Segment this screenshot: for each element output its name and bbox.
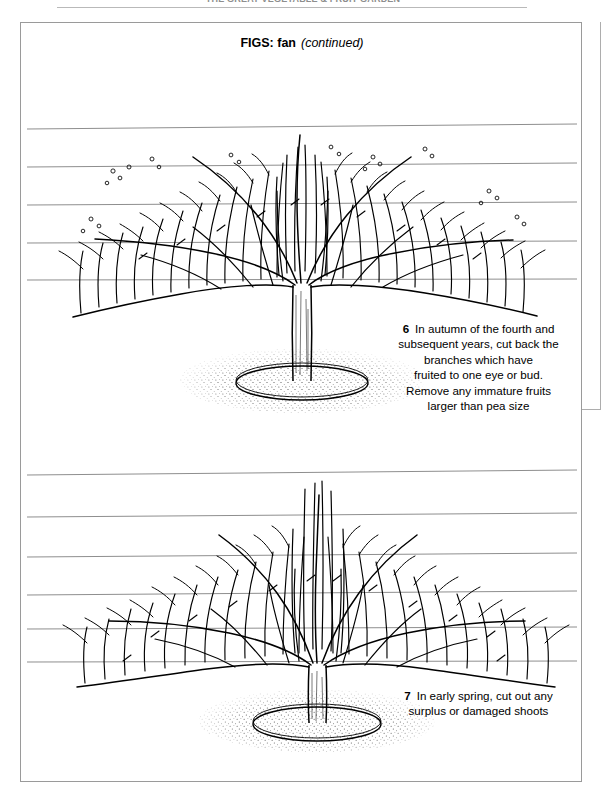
scaffold-branches [77,495,555,687]
outer-trim-line-right [600,22,601,410]
outer-trim-line-foot [582,409,601,410]
caption-6-line-4: Remove any immature fruits [376,383,581,398]
cut-marks [123,575,505,661]
figure-6: 6In autumn of the fourth and subsequent … [21,59,583,429]
caption-6-line-5: larger than pea size [376,398,581,413]
caption-6-text-0: In autumn of the fourth and [415,322,554,335]
caption-6-line-2: branches which have [376,352,581,367]
caption-6-number: 6 [403,322,415,335]
caption-6: 6In autumn of the fourth and subsequent … [376,321,581,413]
running-head-text: THE GREAT VEGETABLE & FRUIT GARDEN [0,0,606,4]
running-head: THE GREAT VEGETABLE & FRUIT GARDEN [0,0,606,9]
page-title-main: FIGS: fan [240,36,296,50]
caption-6-line-1: subsequent years, cut back the [376,336,581,351]
page-title-sub: (continued) [296,36,364,50]
caption-7-line-1: surplus or damaged shoots [376,703,581,718]
page-title: FIGS: fan(continued) [21,36,583,50]
caption-7-line-0: 7In early spring, cut out any [376,688,581,703]
figure-panel: FIGS: fan(continued) [20,22,582,782]
bud-marks [81,145,526,233]
running-head-rule [57,7,527,8]
caption-7-number: 7 [404,689,416,702]
figure-7: 7In early spring, cut out any surplus or… [21,433,583,773]
caption-6-line-3: fruited to one eye or bud. [376,367,581,382]
caption-7: 7In early spring, cut out any surplus or… [376,688,581,719]
caption-6-line-0: 6In autumn of the fourth and [376,321,581,336]
caption-7-text-0: In early spring, cut out any [417,689,553,702]
figure-7-illustration [21,433,583,773]
support-wires [27,124,577,280]
